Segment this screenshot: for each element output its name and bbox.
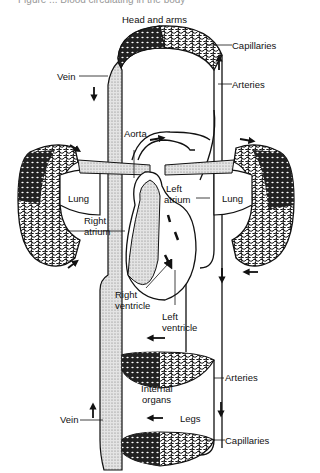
label-aorta: Aorta	[124, 128, 147, 139]
label-right-atrium-line1: Right	[84, 215, 106, 226]
label-left-ventricle-line1: Left	[162, 311, 178, 322]
label-left-atrium-line1: Left	[166, 183, 182, 194]
label-capillaries-top: Capillaries	[232, 40, 276, 51]
label-lung-right: Lung	[222, 193, 243, 204]
legs-capillary-bed	[122, 432, 214, 466]
label-left-atrium-line2: atrium	[164, 194, 190, 205]
label-capillaries-bottom: Capillaries	[225, 435, 269, 446]
label-internal-organs-line2: organs	[142, 394, 171, 405]
label-head-and-arms: Head and arms	[122, 14, 187, 25]
label-lung-left: Lung	[68, 193, 89, 204]
arrow-lung-right-top	[240, 139, 252, 141]
label-left-ventricle-line2: ventricle	[162, 322, 197, 333]
label-internal-organs-line1: Internal	[141, 383, 173, 394]
heart	[126, 132, 210, 300]
label-vein-bottom: Vein	[60, 414, 79, 425]
label-legs: Legs	[180, 413, 201, 424]
label-vein-top: Vein	[57, 71, 76, 82]
vein-vessels	[100, 62, 122, 470]
label-right-ventricle-line1: Right	[115, 289, 137, 300]
label-arteries-bottom: Arteries	[225, 372, 258, 383]
label-right-ventricle-line2: ventricle	[115, 300, 150, 311]
head-capillary-bed	[118, 26, 222, 70]
label-arteries-top: Arteries	[232, 79, 265, 90]
label-right-atrium-line2: atrium	[84, 226, 110, 237]
